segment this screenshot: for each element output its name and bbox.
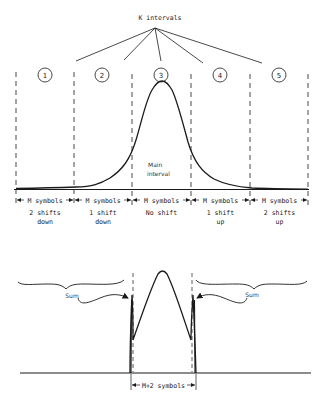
m-symbols-labels: M symbols M symbols M symbols M symbols … bbox=[27, 197, 297, 205]
left-sum-brace bbox=[18, 280, 124, 289]
left-sum-arrow bbox=[78, 295, 128, 303]
bottom-boundaries bbox=[133, 273, 192, 372]
interval-circle-3: 3 bbox=[154, 68, 168, 82]
shift-label-1b: down bbox=[37, 218, 53, 226]
m-symbols-label-3: M symbols bbox=[144, 197, 179, 205]
m-symbols-label-1: M symbols bbox=[27, 197, 62, 205]
folded-spectrum-curve bbox=[130, 271, 196, 373]
interval-shift-diagram: K intervals 1 2 3 4 5 bbox=[0, 0, 325, 402]
shift-label-1a: 2 shifts bbox=[29, 209, 60, 217]
interval-circle-5: 5 bbox=[272, 68, 286, 82]
shift-label-4a: 1 shift bbox=[207, 209, 234, 217]
sum-label-right: Sum bbox=[245, 291, 259, 298]
k-intervals-label: K intervals bbox=[138, 14, 181, 22]
svg-text:4: 4 bbox=[218, 72, 223, 80]
shift-label-5a: 2 shifts bbox=[264, 209, 295, 217]
shift-label-2b: down bbox=[95, 218, 111, 226]
interval-number-circles: 1 2 3 4 5 bbox=[38, 68, 286, 82]
m-plus-2-symbols-label: M+2 symbols bbox=[142, 382, 185, 390]
shift-label-2a: 1 shift bbox=[89, 209, 116, 217]
shift-labels: 2 shifts down 1 shift down No shift 1 sh… bbox=[29, 209, 295, 226]
m-symbols-label-4: M symbols bbox=[203, 197, 238, 205]
main-interval-label-2: interval bbox=[147, 170, 170, 177]
k-intervals-fan-lines bbox=[76, 28, 262, 63]
shift-label-4b: up bbox=[217, 218, 225, 226]
interval-circle-2: 2 bbox=[95, 68, 109, 82]
right-wall bbox=[195, 300, 196, 373]
m-symbols-label-5: M symbols bbox=[262, 197, 297, 205]
left-wall bbox=[131, 300, 132, 373]
interval-boundaries bbox=[16, 72, 308, 206]
right-sum-arrow bbox=[197, 295, 247, 303]
m-symbols-label-2: M symbols bbox=[85, 197, 120, 205]
interval-circle-1: 1 bbox=[38, 68, 52, 82]
svg-text:2: 2 bbox=[100, 72, 104, 80]
shift-label-3a: No shift bbox=[146, 209, 177, 217]
svg-text:5: 5 bbox=[277, 72, 281, 80]
sum-label-left: Sum bbox=[65, 292, 79, 299]
svg-text:1: 1 bbox=[43, 72, 47, 80]
main-interval-label-1: Main bbox=[148, 161, 163, 168]
svg-text:3: 3 bbox=[159, 72, 163, 80]
interval-circle-4: 4 bbox=[213, 68, 227, 82]
right-sum-brace bbox=[196, 280, 307, 289]
shift-label-5b: up bbox=[276, 218, 284, 226]
